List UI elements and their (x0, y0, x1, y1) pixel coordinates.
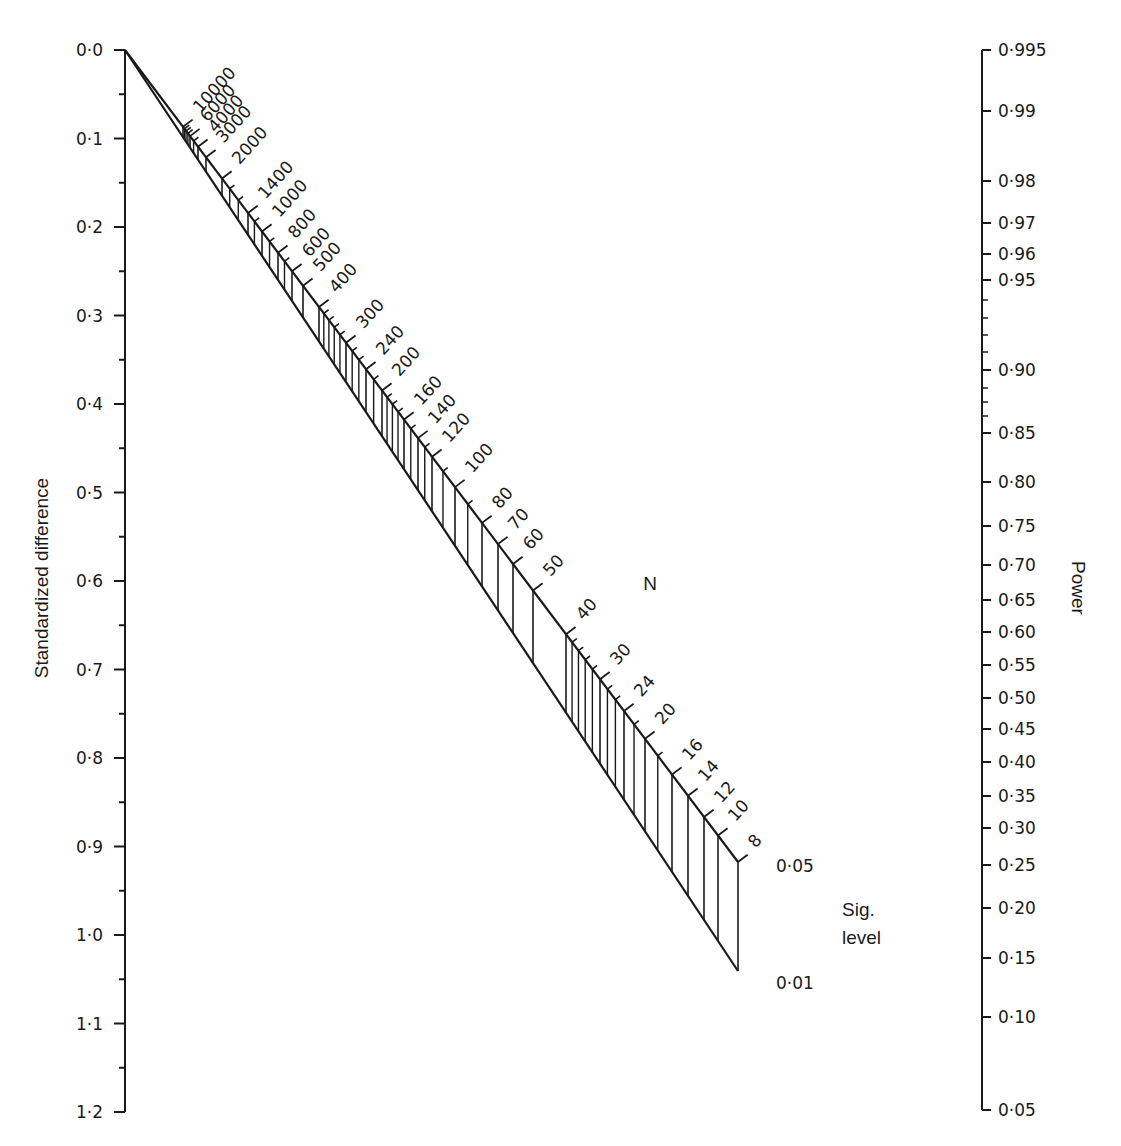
n-major-tick (432, 449, 442, 456)
n-minor-tick (188, 130, 193, 134)
n-major-tick (222, 171, 232, 178)
n-major-tick (624, 704, 634, 711)
n-major-tick (404, 412, 414, 419)
left-tick-label: 0·1 (76, 129, 103, 149)
sig-level-005: 0·05 (776, 856, 814, 876)
n-minor-tick (634, 721, 639, 725)
n-major-tick (718, 828, 728, 835)
n-major-tick (346, 336, 356, 343)
left-tick-label: 1·0 (76, 925, 103, 945)
n-minor-tick (658, 752, 663, 756)
right-tick-label: 0·15 (998, 948, 1036, 968)
right-tick-label: 0·85 (998, 423, 1036, 443)
n-major-tick (455, 480, 465, 487)
n-major-tick (303, 279, 313, 286)
right-tick-label: 0·40 (998, 752, 1036, 772)
n-tick-label: 16 (678, 735, 707, 764)
n-major-tick (513, 557, 523, 564)
n-minor-tick (585, 656, 590, 660)
n-major-tick (319, 300, 329, 307)
n-minor-tick (334, 324, 339, 328)
right-tick-label: 0·05 (998, 1100, 1036, 1120)
right-tick-label: 0·90 (998, 360, 1036, 380)
n-major-tick (248, 206, 258, 213)
right-tick-label: 0·10 (998, 1007, 1036, 1027)
left-tick-label: 0·3 (76, 306, 103, 326)
n-tick-label: 30 (606, 639, 635, 668)
left-tick-label: 0·2 (76, 217, 103, 237)
n-minor-tick (254, 218, 259, 222)
left-axis-title: Standardized difference (31, 478, 52, 678)
n-major-tick (382, 383, 392, 390)
n-minor-tick (284, 258, 289, 262)
right-tick-label: 0·80 (998, 472, 1036, 492)
n-minor-tick (425, 443, 430, 447)
right-tick-label: 0·65 (998, 590, 1036, 610)
n-minor-tick (340, 331, 345, 335)
left-tick-label: 0·5 (76, 483, 103, 503)
right-tick-label: 0·45 (998, 719, 1036, 739)
n-minor-tick (374, 376, 379, 380)
n-minor-tick (238, 196, 243, 200)
right-tick-label: 0·25 (998, 855, 1036, 875)
right-tick-label: 0·96 (998, 244, 1036, 264)
n-major-tick (688, 789, 698, 796)
left-tick-label: 0·6 (76, 571, 103, 591)
n-tick-label: 20 (651, 699, 680, 728)
n-major-tick (672, 767, 682, 774)
n-minor-tick (572, 639, 577, 643)
n-minor-tick (392, 401, 397, 405)
n-major-tick (600, 672, 610, 679)
n-major-tick (498, 537, 508, 544)
n-minor-tick (270, 238, 275, 242)
right-tick-label: 0·98 (998, 171, 1036, 191)
left-tick-label: 0·9 (76, 837, 103, 857)
left-tick-label: 1·2 (76, 1102, 103, 1122)
n-tick-label: 8 (744, 830, 766, 851)
sig-level-001: 0·01 (776, 973, 814, 993)
n-tick-label: 40 (572, 594, 601, 623)
right-tick-label: 0·35 (998, 786, 1036, 806)
n-minor-tick (468, 500, 473, 504)
n-minor-tick (194, 137, 199, 141)
n-major-tick (533, 583, 543, 590)
n-major-tick (206, 150, 216, 157)
right-axis-title: Power (1068, 561, 1089, 616)
left-tick-label: 0·8 (76, 748, 103, 768)
left-axis-standardized-difference: 0·00·10·20·30·40·50·60·70·80·91·01·11·2 (76, 40, 125, 1122)
n-tick-label: 80 (488, 483, 517, 512)
n-tick-label: 100 (461, 439, 498, 476)
n-minor-tick (398, 408, 403, 412)
n-major-tick (645, 732, 655, 739)
n-minor-tick (324, 310, 329, 314)
right-tick-label: 0·99 (998, 101, 1036, 121)
n-minor-tick (443, 468, 448, 472)
n-major-tick (278, 245, 288, 252)
n-minor-tick (607, 685, 612, 689)
n-tick-label: 14 (694, 756, 723, 785)
sig-level-label-line1: Sig. (842, 899, 875, 920)
n-scale-diagonal: 1000060004000300020001400100080060050040… (125, 50, 766, 971)
n-minor-tick (592, 665, 597, 669)
left-tick-label: 0·7 (76, 660, 103, 680)
n-minor-tick (352, 347, 357, 351)
n-minor-tick (359, 356, 364, 360)
n-major-tick (292, 264, 302, 271)
left-tick-label: 0·0 (76, 40, 103, 60)
n-major-tick (366, 362, 376, 369)
right-tick-label: 0·95 (998, 270, 1036, 290)
n-major-tick (418, 431, 428, 438)
n-minor-tick (329, 316, 334, 320)
n-major-tick (198, 139, 208, 146)
nomogram-chart: 0·00·10·20·30·40·50·60·70·80·91·01·11·2 … (0, 0, 1121, 1146)
n-tick-label: 300 (352, 295, 389, 332)
right-tick-label: 0·20 (998, 898, 1036, 918)
right-tick-label: 0·50 (998, 688, 1036, 708)
n-minor-tick (411, 425, 416, 429)
n-tick-label: 50 (539, 550, 568, 579)
right-tick-label: 0·75 (998, 516, 1036, 536)
sig-level-label-line2: level (842, 927, 881, 948)
left-tick-label: 0·4 (76, 394, 103, 414)
right-tick-label: 0·55 (998, 655, 1036, 675)
n-major-tick (738, 855, 748, 862)
